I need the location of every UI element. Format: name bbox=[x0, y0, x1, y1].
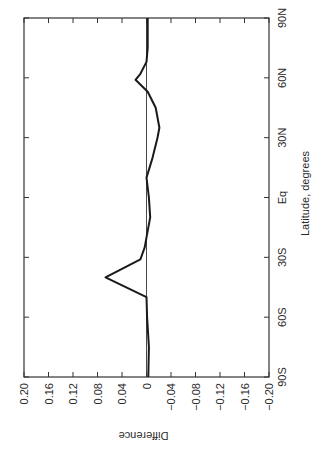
y-tick-label: −0.08 bbox=[190, 383, 202, 411]
x-tick-label: 60N bbox=[276, 68, 288, 88]
y-tick-label: 0.04 bbox=[116, 383, 128, 404]
x-tick-label: Eq bbox=[276, 191, 288, 204]
x-tick-label: 90S bbox=[276, 367, 288, 387]
y-tick-label: 0.08 bbox=[92, 383, 104, 404]
data-line bbox=[106, 18, 160, 377]
x-tick-label: 30N bbox=[276, 128, 288, 148]
tick-labels: 0.200.160.120.080.040−0.04−0.08−0.12−0.1… bbox=[18, 8, 288, 411]
y-axis-title: Difference bbox=[119, 430, 169, 442]
y-tick-label: 0.12 bbox=[67, 383, 79, 404]
y-tick-label: −0.12 bbox=[214, 383, 226, 411]
y-tick-label: −0.04 bbox=[165, 383, 177, 411]
x-tick-label: 90N bbox=[276, 8, 288, 28]
x-axis-title: Latitude, degrees bbox=[299, 150, 311, 236]
y-tick-label: −0.20 bbox=[263, 383, 275, 411]
difference-by-latitude-chart: 0.200.160.120.080.040−0.04−0.08−0.12−0.1… bbox=[0, 0, 324, 464]
y-tick-label: −0.16 bbox=[239, 383, 251, 411]
y-tick-label: 0.20 bbox=[18, 383, 30, 404]
x-tick-label: 60S bbox=[276, 307, 288, 327]
y-tick-label: 0.16 bbox=[43, 383, 55, 404]
x-tick-label: 30S bbox=[276, 248, 288, 268]
y-tick-label: 0 bbox=[141, 383, 153, 389]
